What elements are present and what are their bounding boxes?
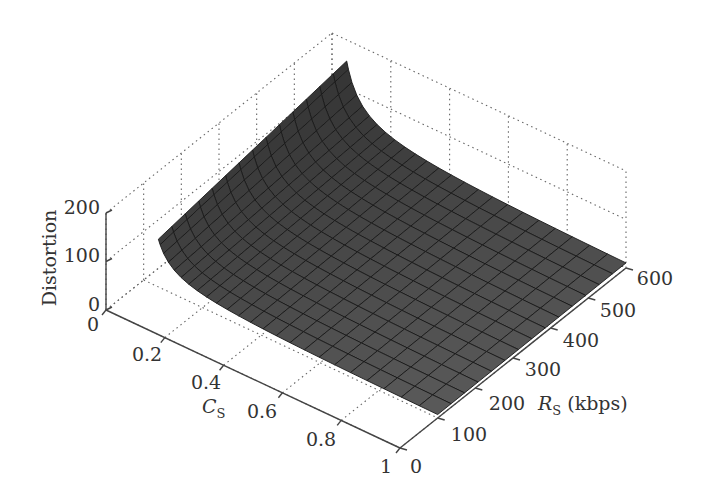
x-tick-0.2: 0.2 bbox=[132, 343, 162, 365]
z-tick-200: 200 bbox=[64, 196, 100, 218]
y-axis-title-sub: S bbox=[552, 403, 561, 418]
x-axis-title-sub: S bbox=[217, 406, 226, 421]
y-tick-0: 0 bbox=[410, 455, 422, 477]
x-tick-1: 1 bbox=[380, 455, 392, 477]
y-axis-title-unit: (kbps) bbox=[561, 392, 627, 414]
y-tick-100: 100 bbox=[451, 423, 487, 445]
z-axis-title: Distortion bbox=[38, 210, 60, 307]
surface-plot: 200 100 0 Distortion 0 0.2 0.4 0.6 0.8 1… bbox=[0, 0, 704, 499]
z-tick-100: 100 bbox=[64, 244, 100, 266]
x-tick-0.8: 0.8 bbox=[306, 428, 336, 450]
x-tick-0.4: 0.4 bbox=[191, 371, 221, 393]
x-axis-title: CS bbox=[202, 395, 225, 421]
y-tick-500: 500 bbox=[600, 299, 636, 321]
y-tick-600: 600 bbox=[637, 267, 673, 289]
z-tick-0: 0 bbox=[88, 293, 100, 315]
y-tick-200: 200 bbox=[489, 392, 525, 414]
x-tick-0: 0 bbox=[87, 313, 99, 335]
y-tick-400: 400 bbox=[563, 329, 599, 351]
x-tick-0.6: 0.6 bbox=[247, 400, 277, 422]
x-axis-title-main: C bbox=[202, 395, 217, 417]
y-tick-300: 300 bbox=[525, 358, 561, 380]
y-axis-title: RS (kbps) bbox=[537, 392, 628, 418]
y-axis-title-main: R bbox=[537, 392, 552, 414]
